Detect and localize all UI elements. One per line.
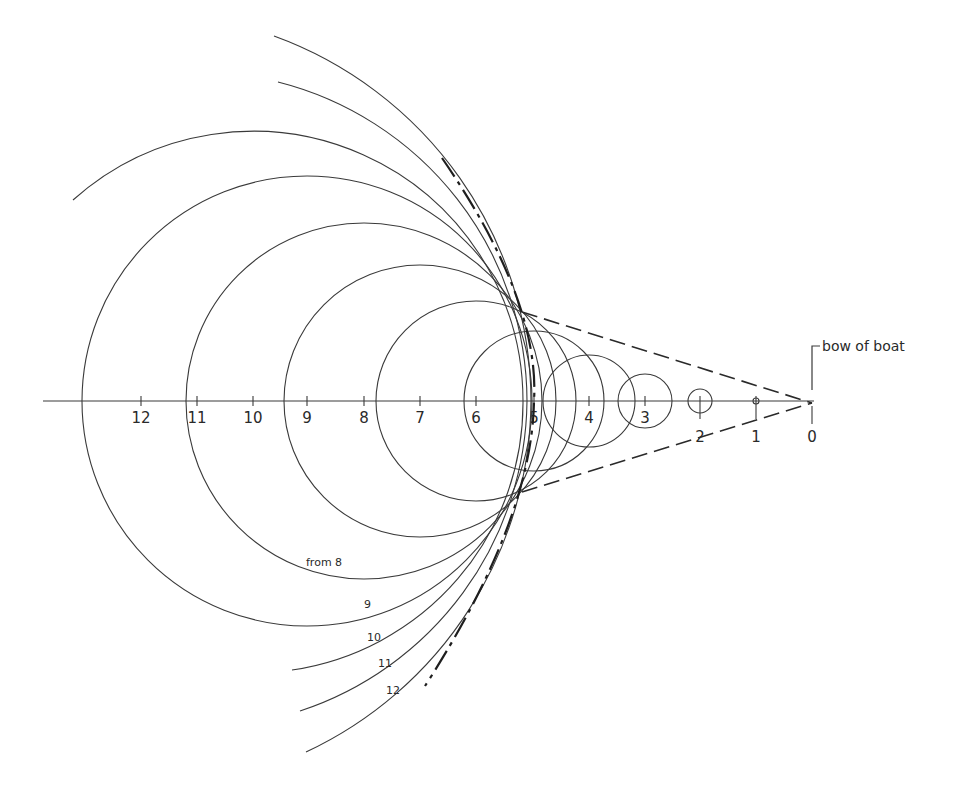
- bow-label: bow of boat: [822, 338, 905, 354]
- wave-diagram: 1211109876543210 bow of boat from 891011…: [0, 0, 959, 794]
- tick-label: 7: [415, 409, 425, 427]
- arc-label: from 8: [306, 556, 342, 569]
- tick-label: 1: [751, 428, 761, 446]
- arc-label: 11: [378, 657, 392, 670]
- tick-label: 12: [131, 409, 150, 427]
- tick-label: 10: [243, 409, 262, 427]
- tick-label: 0: [807, 428, 817, 446]
- tick-label: 11: [187, 409, 206, 427]
- bow-marker: [812, 346, 820, 390]
- tick-label: 3: [640, 409, 650, 427]
- tick-label: 4: [584, 409, 594, 427]
- axis-ticks: 1211109876543210: [131, 396, 816, 446]
- arc-label: 10: [367, 631, 381, 644]
- tick-label: 9: [302, 409, 312, 427]
- tick-label: 6: [471, 409, 481, 427]
- tick-label: 8: [359, 409, 369, 427]
- arc-label: 9: [364, 598, 371, 611]
- arc-label: 12: [386, 684, 400, 697]
